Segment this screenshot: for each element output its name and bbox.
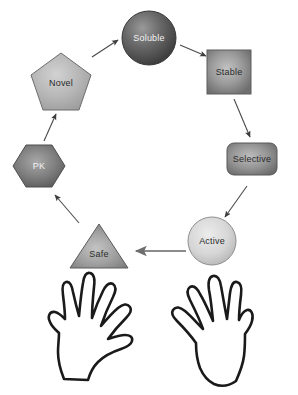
node-selective[interactable]: Selective: [227, 143, 277, 175]
node-label-safe: Safe: [89, 249, 108, 259]
arrow-soluble-to-stable: [180, 45, 206, 56]
arrow-selective-to-active: [225, 186, 247, 217]
node-label-soluble: Soluble: [133, 33, 164, 43]
node-stable[interactable]: Stable: [207, 50, 251, 94]
node-active[interactable]: Active: [188, 217, 236, 265]
right-hand-path: [172, 276, 252, 386]
triangle-icon: [70, 224, 128, 268]
node-safe[interactable]: Safe: [70, 224, 128, 268]
node-pk[interactable]: PK: [13, 145, 65, 187]
right-hand-outline: [172, 276, 252, 386]
arrow-novel-to-soluble: [92, 40, 118, 57]
node-novel[interactable]: Novel: [31, 53, 91, 110]
arrow-stable-to-selective: [234, 99, 250, 137]
arrow-safe-to-pk: [55, 195, 79, 223]
node-label-selective: Selective: [233, 154, 271, 164]
cycle-diagram: Soluble Stable Selective Active Safe PK: [0, 0, 298, 395]
node-label-pk: PK: [33, 161, 45, 171]
left-hand-outline: [49, 273, 132, 380]
left-hand-path: [49, 273, 132, 380]
diagram-canvas: Soluble Stable Selective Active Safe PK: [0, 0, 298, 395]
node-label-stable: Stable: [216, 67, 243, 77]
node-label-active: Active: [199, 236, 225, 246]
node-label-novel: Novel: [49, 78, 73, 88]
node-soluble[interactable]: Soluble: [122, 11, 176, 65]
arrow-pk-to-novel: [44, 114, 56, 141]
